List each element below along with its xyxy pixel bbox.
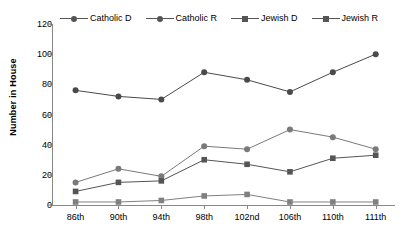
data-point (159, 198, 165, 204)
data-point (116, 180, 122, 186)
line-chart: Catholic D Catholic R Jewish D Jewish R … (0, 0, 403, 238)
data-point (287, 89, 293, 95)
data-point (330, 155, 336, 161)
data-point (373, 199, 379, 205)
data-point (287, 199, 293, 205)
data-point (330, 69, 336, 75)
series-line-catholic-d (76, 54, 376, 99)
data-point (244, 77, 250, 83)
data-point (116, 199, 122, 205)
data-point (158, 96, 164, 102)
data-point (115, 93, 121, 99)
data-point (244, 192, 250, 198)
data-point (330, 199, 336, 205)
data-point (244, 161, 250, 167)
data-point (73, 189, 79, 195)
data-point (287, 127, 293, 133)
data-point (373, 152, 379, 158)
plot-area (0, 0, 403, 238)
data-point (287, 169, 293, 175)
data-point (73, 179, 79, 185)
data-point (201, 157, 207, 163)
data-point (201, 143, 207, 149)
data-point (73, 87, 79, 93)
data-point (159, 178, 165, 184)
data-point (115, 166, 121, 172)
data-point (330, 134, 336, 140)
data-point (244, 146, 250, 152)
data-point (373, 51, 379, 57)
data-point (73, 199, 79, 205)
data-point (201, 69, 207, 75)
data-point (201, 193, 207, 199)
data-point (373, 146, 379, 152)
